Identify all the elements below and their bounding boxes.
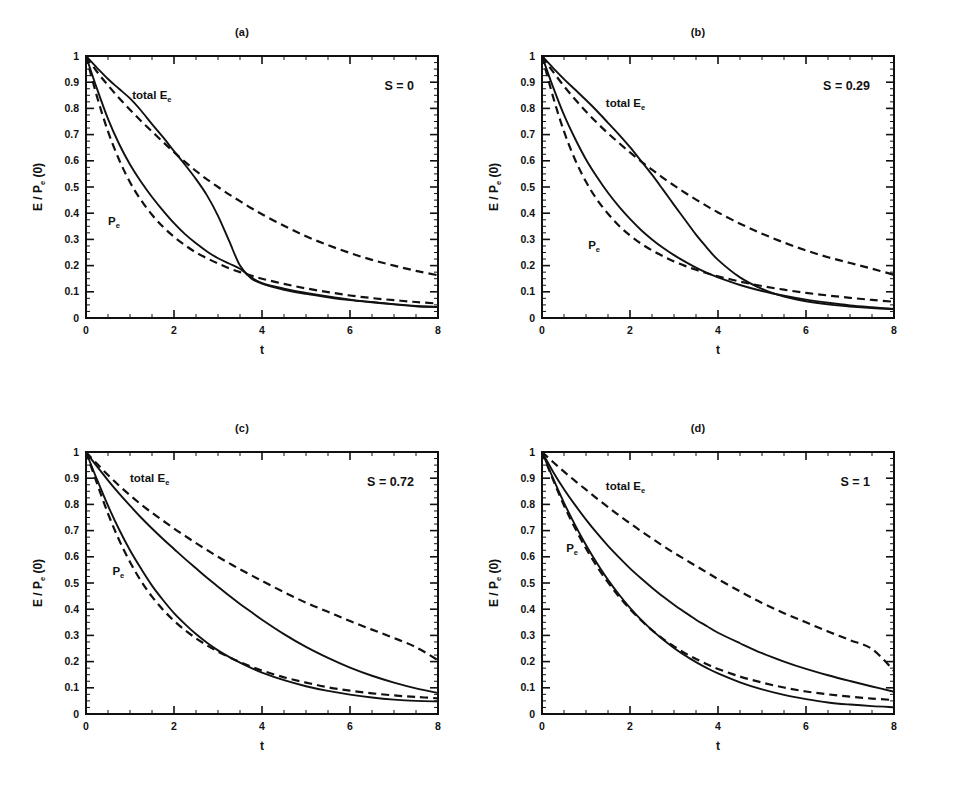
y-tick-label: 0.9 [520, 76, 535, 88]
x-tick-label: 6 [803, 720, 809, 732]
y-tick-label: 0.4 [64, 207, 79, 219]
x-axis-title: t [260, 739, 264, 753]
s-value-annotation: S = 0.29 [823, 79, 870, 93]
curve-label-pe: Pe [588, 239, 600, 254]
svg-text:total Ee: total Ee [130, 472, 169, 487]
y-tick-label: 0.1 [64, 285, 79, 297]
y-tick-label: 0.9 [64, 472, 79, 484]
svg-text:Pe: Pe [108, 215, 120, 230]
y-tick-label: 0.6 [520, 550, 535, 562]
y-tick-label: 0.5 [64, 577, 79, 589]
figure-panel-grid: (a) 0246800.10.20.30.40.50.60.70.80.91tE… [0, 0, 956, 792]
y-tick-label: 0 [529, 708, 535, 720]
curve-label-total: total Ee [606, 480, 645, 495]
y-tick-label: 0 [73, 312, 79, 324]
s-value-annotation: S = 0 [384, 79, 414, 93]
y-tick-label: 0.7 [64, 524, 79, 536]
plot-frame [542, 56, 894, 318]
x-tick-label: 4 [715, 720, 721, 732]
svg-text:total Ee: total Ee [132, 89, 171, 104]
y-tick-label: 0.6 [520, 154, 535, 166]
x-tick-label: 0 [539, 720, 545, 732]
y-tick-label: 0.1 [520, 681, 535, 693]
x-tick-label: 8 [435, 720, 441, 732]
svg-text:total Ee: total Ee [606, 480, 645, 495]
y-tick-label: 0.3 [520, 629, 535, 641]
svg-text:E / Pe (0): E / Pe (0) [31, 559, 47, 607]
x-tick-label: 8 [891, 324, 897, 336]
y-tick-label: 0 [73, 708, 79, 720]
y-tick-label: 0.5 [520, 577, 535, 589]
y-tick-label: 1 [529, 50, 535, 62]
x-tick-label: 6 [803, 324, 809, 336]
y-tick-label: 0.2 [520, 259, 535, 271]
y-tick-label: 0.2 [64, 655, 79, 667]
x-tick-label: 4 [259, 324, 265, 336]
svg-text:Pe: Pe [566, 542, 578, 557]
x-tick-label: 6 [347, 720, 353, 732]
y-tick-label: 0.3 [520, 233, 535, 245]
y-tick-label: 0.7 [520, 524, 535, 536]
y-tick-label: 1 [529, 446, 535, 458]
panel-d-plot: 0246800.10.20.30.40.50.60.70.80.91tE / P… [478, 418, 918, 778]
y-tick-label: 0 [529, 312, 535, 324]
curve-label-total: total Ee [132, 89, 171, 104]
x-tick-label: 6 [347, 324, 353, 336]
x-tick-label: 0 [539, 324, 545, 336]
curve-label-total: total Ee [606, 97, 645, 112]
y-tick-label: 0.2 [64, 259, 79, 271]
y-tick-label: 0.2 [520, 655, 535, 667]
svg-text:Pe: Pe [112, 565, 124, 580]
x-tick-label: 0 [83, 720, 89, 732]
y-axis-title: E / Pe (0) [487, 559, 503, 607]
y-tick-label: 0.9 [64, 76, 79, 88]
x-tick-label: 2 [171, 324, 177, 336]
y-tick-label: 0.1 [64, 681, 79, 693]
y-tick-label: 1 [73, 50, 79, 62]
curve-label-pe: Pe [108, 215, 120, 230]
chart-panel-c: (c) 0246800.10.20.30.40.50.60.70.80.91tE… [22, 418, 462, 778]
svg-text:E / Pe (0): E / Pe (0) [487, 163, 503, 211]
y-tick-label: 1 [73, 446, 79, 458]
chart-panel-b: (b) 0246800.10.20.30.40.50.60.70.80.91tE… [478, 22, 918, 382]
x-tick-label: 2 [627, 720, 633, 732]
y-tick-label: 0.6 [64, 550, 79, 562]
y-tick-label: 0.5 [520, 181, 535, 193]
x-axis-title: t [260, 343, 264, 357]
chart-panel-d: (d) 0246800.10.20.30.40.50.60.70.80.91tE… [478, 418, 918, 778]
svg-text:Pe: Pe [588, 239, 600, 254]
y-tick-label: 0.9 [520, 472, 535, 484]
x-tick-label: 2 [171, 720, 177, 732]
y-axis-title: E / Pe (0) [31, 559, 47, 607]
y-tick-label: 0.4 [520, 603, 535, 615]
x-tick-label: 0 [83, 324, 89, 336]
panel-c-plot: 0246800.10.20.30.40.50.60.70.80.91tE / P… [22, 418, 462, 778]
y-tick-label: 0.8 [520, 498, 535, 510]
y-axis-title: E / Pe (0) [487, 163, 503, 211]
y-tick-label: 0.7 [64, 128, 79, 140]
chart-panel-a: (a) 0246800.10.20.30.40.50.60.70.80.91tE… [22, 22, 462, 382]
x-axis-title: t [716, 739, 720, 753]
y-tick-label: 0.4 [520, 207, 535, 219]
y-tick-label: 0.3 [64, 629, 79, 641]
s-value-annotation: S = 1 [840, 475, 870, 489]
y-tick-label: 0.7 [520, 128, 535, 140]
x-tick-label: 2 [627, 324, 633, 336]
y-tick-label: 0.6 [64, 154, 79, 166]
s-value-annotation: S = 0.72 [367, 475, 414, 489]
curve-solid [542, 56, 894, 309]
y-tick-label: 0.8 [520, 102, 535, 114]
y-tick-label: 0.3 [64, 233, 79, 245]
curve-dashed [542, 452, 894, 700]
panel-a-plot: 0246800.10.20.30.40.50.60.70.80.91tE / P… [22, 22, 462, 382]
panel-b-plot: 0246800.10.20.30.40.50.60.70.80.91tE / P… [478, 22, 918, 382]
x-tick-label: 4 [259, 720, 265, 732]
plot-frame [86, 452, 438, 714]
x-tick-label: 4 [715, 324, 721, 336]
y-tick-label: 0.5 [64, 181, 79, 193]
plot-frame [542, 452, 894, 714]
y-tick-label: 0.4 [64, 603, 79, 615]
x-tick-label: 8 [891, 720, 897, 732]
y-tick-label: 0.8 [64, 498, 79, 510]
y-tick-label: 0.8 [64, 102, 79, 114]
